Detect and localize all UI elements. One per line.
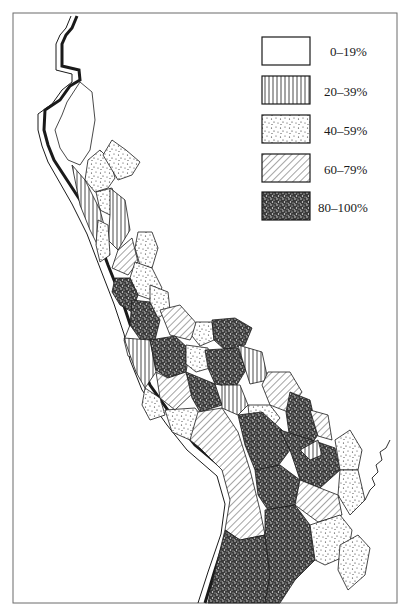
legend-label: 20–39% xyxy=(324,84,368,99)
legend-label: 40–59% xyxy=(324,123,368,138)
choropleth-map: 0–19% 20–39% 40–59% 60–79% 80–100% xyxy=(0,0,409,612)
legend-swatch-dots xyxy=(262,115,310,143)
legend-swatch-diagonal xyxy=(262,154,310,182)
legend-swatch-vertical xyxy=(262,76,310,104)
legend-swatch-blank xyxy=(262,37,310,65)
legend-label: 60–79% xyxy=(324,162,368,177)
legend-label: 0–19% xyxy=(330,44,367,59)
legend-swatch-stipple xyxy=(262,192,310,220)
legend-label: 80–100% xyxy=(318,200,368,215)
